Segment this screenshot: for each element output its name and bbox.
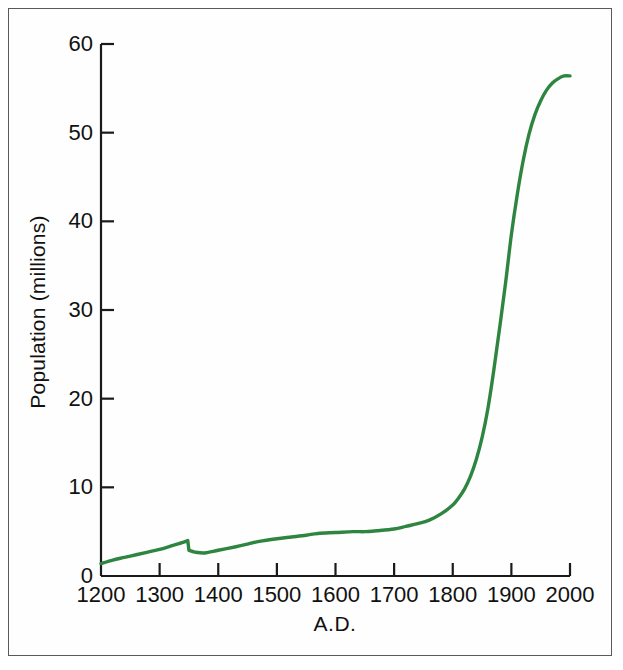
- x-axis-tick-label: 1200: [77, 582, 126, 608]
- population-line-chart: [0, 0, 623, 670]
- population-line-path: [101, 76, 570, 564]
- y-axis-tick-label: 60: [5, 31, 93, 57]
- x-axis-tick-label: 1800: [428, 582, 477, 608]
- y-axis-tick-label: 50: [5, 120, 93, 146]
- x-axis-tick-label: 1600: [311, 582, 360, 608]
- y-axis-tick-label: 10: [5, 474, 93, 500]
- y-axis-ticks: [101, 44, 114, 487]
- x-axis-tick-label: 1900: [487, 582, 536, 608]
- y-axis-title: Population (millions): [26, 192, 50, 432]
- x-axis-tick-label: 1500: [252, 582, 301, 608]
- axes-group: [101, 44, 570, 576]
- x-axis-title: A.D.: [100, 612, 570, 636]
- x-axis-tick-label: 1400: [194, 582, 243, 608]
- x-axis-tick-label: 1700: [370, 582, 419, 608]
- x-axis-tick-label: 2000: [546, 582, 595, 608]
- data-series-group: [101, 76, 570, 564]
- figure-root: 0102030405060120013001400150016001700180…: [0, 0, 623, 670]
- x-axis-tick-label: 1300: [135, 582, 184, 608]
- x-axis-ticks: [160, 563, 570, 576]
